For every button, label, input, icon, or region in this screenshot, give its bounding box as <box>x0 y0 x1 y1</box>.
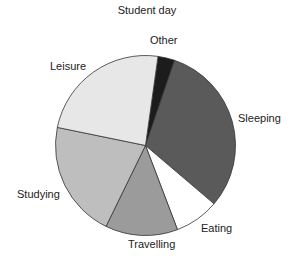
label-studying: Studying <box>17 188 60 200</box>
label-other: Other <box>150 34 178 46</box>
pie-chart <box>0 0 294 263</box>
label-sleeping: Sleeping <box>238 112 281 124</box>
label-travelling: Travelling <box>128 238 175 250</box>
label-leisure: Leisure <box>50 60 86 72</box>
label-eating: Eating <box>201 222 232 234</box>
pie-slices <box>56 56 236 236</box>
